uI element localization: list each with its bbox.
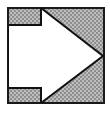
figure-canvas [0,0,110,113]
arrow-figure-svg [0,0,110,113]
